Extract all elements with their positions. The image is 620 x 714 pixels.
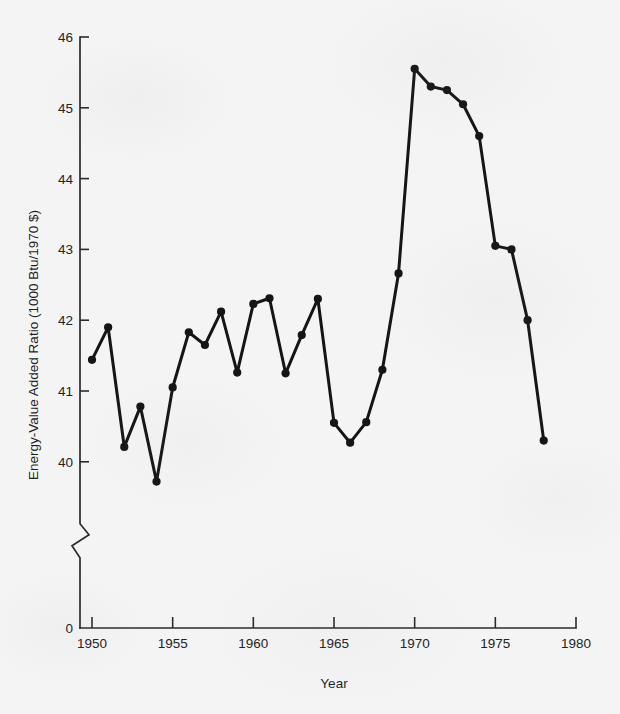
- data-point-1958: [217, 308, 225, 316]
- data-point-1974: [475, 132, 483, 140]
- data-point-1965: [330, 419, 338, 427]
- data-point-1969: [394, 269, 402, 277]
- data-point-1960: [249, 300, 257, 308]
- y-tick-label-40: 40: [58, 455, 73, 470]
- y-tick-label-zero: 0: [65, 621, 73, 636]
- x-tick-label-1980: 1980: [561, 636, 591, 651]
- data-point-1951: [104, 323, 112, 331]
- data-point-1977: [524, 316, 532, 324]
- x-tick-label-1960: 1960: [238, 636, 268, 651]
- data-point-1967: [362, 418, 370, 426]
- data-point-1952: [120, 443, 128, 451]
- x-tick-label-1970: 1970: [400, 636, 430, 651]
- y-axis-title: Energy-Value Added Ratio (1000 Btu/1970 …: [26, 210, 41, 480]
- data-point-1968: [378, 366, 386, 374]
- y-tick-label-42: 42: [58, 313, 73, 328]
- data-point-1971: [427, 82, 435, 90]
- data-point-1953: [136, 402, 144, 410]
- data-point-1976: [507, 245, 515, 253]
- series-line: [92, 69, 544, 482]
- data-point-1964: [314, 295, 322, 303]
- data-point-1957: [201, 341, 209, 349]
- data-point-1961: [265, 294, 273, 302]
- y-tick-label-44: 44: [58, 172, 74, 187]
- data-point-1955: [169, 383, 177, 391]
- y-tick-label-45: 45: [58, 101, 73, 116]
- data-point-1970: [411, 65, 419, 73]
- data-point-1966: [346, 439, 354, 447]
- chart-container: Energy-Value Added Ratio (1000 Btu/1970 …: [0, 0, 620, 714]
- data-point-1972: [443, 86, 451, 94]
- data-point-1956: [185, 328, 193, 336]
- y-axis: 404142434445460: [58, 30, 89, 636]
- data-point-1978: [540, 436, 548, 444]
- x-axis: 1950195519601965197019751980: [77, 617, 591, 651]
- y-axis-line: [72, 37, 89, 628]
- y-tick-label-41: 41: [58, 384, 73, 399]
- data-point-1950: [88, 356, 96, 364]
- data-point-1959: [233, 368, 241, 376]
- y-tick-label-43: 43: [58, 242, 73, 257]
- line-chart: Energy-Value Added Ratio (1000 Btu/1970 …: [0, 0, 620, 714]
- x-tick-label-1975: 1975: [480, 636, 510, 651]
- data-point-1962: [282, 369, 290, 377]
- data-point-1954: [152, 478, 160, 486]
- x-tick-label-1955: 1955: [158, 636, 188, 651]
- data-point-1973: [459, 100, 467, 108]
- data-point-1975: [491, 242, 499, 250]
- x-tick-label-1965: 1965: [319, 636, 349, 651]
- x-axis-title: Year: [320, 676, 348, 691]
- data-point-1963: [298, 331, 306, 339]
- x-tick-label-1950: 1950: [77, 636, 107, 651]
- y-tick-label-46: 46: [58, 30, 73, 45]
- data-series: [88, 65, 548, 486]
